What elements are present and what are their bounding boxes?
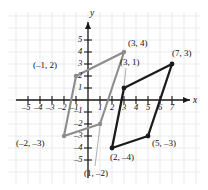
y-tick-3: 3 [78,58,82,68]
x-axis-arrow [183,97,190,103]
x-tick-neg4: –4 [34,102,43,112]
x-tick-3: 3 [122,102,126,112]
x-axis-label: x [193,95,197,105]
y-tick-neg2: –2 [74,118,83,128]
x-tick-neg5: –5 [22,102,31,112]
y-axis-label: y [90,8,94,18]
point-label-neg1-2: (–1, 2) [33,60,57,70]
y-tick-1: 1 [78,82,82,92]
x-tick-neg3: –3 [46,102,55,112]
point-label-neg2-neg3: (–2, –3) [16,138,45,148]
gray-parallelogram-shape [64,52,124,136]
y-tick-neg1: –1 [74,105,83,115]
x-tick-7: 7 [170,102,174,112]
x-tick-1: 1 [98,102,102,112]
x-tick-4: 4 [134,102,138,112]
x-tick-5: 5 [146,102,150,112]
graph-canvas [0,0,208,190]
y-tick-4: 4 [78,46,82,56]
point-label-3-1: (3, 1) [120,57,140,67]
point-label-3-4: (3, 4) [128,38,148,48]
y-axis-arrow [85,22,91,29]
axes [16,22,190,178]
y-tick-neg4: –4 [74,142,83,152]
point-label-2-neg4: (2, –4) [110,152,134,162]
x-tick-6: 6 [158,102,162,112]
point-label-1-neg2: (1, –2) [84,168,108,178]
y-tick-neg3: –3 [74,130,83,140]
dark-parallelogram-shape [112,64,172,148]
y-tick-neg5: –5 [74,154,83,164]
y-tick-5: 5 [78,34,82,44]
x-tick-2: 2 [110,102,114,112]
point-label-7-3: (7, 3) [172,48,192,58]
y-tick-2: 2 [78,70,82,80]
grid-lines [8,12,200,184]
coordinate-plane-figure: –5 –4 –3 –2 –1 1 2 3 4 5 6 7 5 4 3 2 1 –… [0,0,208,190]
point-label-5-neg3: (5, –3) [152,138,176,148]
x-tick-neg2: –2 [58,102,67,112]
